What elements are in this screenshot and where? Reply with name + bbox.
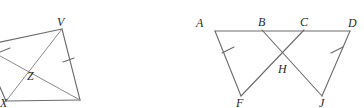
vertex-label-h: H bbox=[277, 62, 288, 76]
vertex-label-d: D bbox=[347, 16, 357, 30]
tick-segment-af bbox=[222, 47, 234, 53]
vertex-label-j: J bbox=[319, 96, 325, 108]
segment-fc bbox=[241, 30, 304, 96]
vertex-label-b: B bbox=[258, 15, 266, 29]
vertex-label-c: C bbox=[300, 15, 309, 29]
segment-af bbox=[215, 31, 241, 96]
segment-dj bbox=[322, 31, 350, 96]
segment-jb bbox=[262, 30, 322, 96]
vertex-label-f: F bbox=[235, 96, 244, 108]
right-figure: A B C D H F J bbox=[0, 0, 364, 108]
vertex-label-a: A bbox=[195, 16, 204, 30]
diagram-canvas: V Z X A B C D H F J bbox=[0, 0, 364, 108]
